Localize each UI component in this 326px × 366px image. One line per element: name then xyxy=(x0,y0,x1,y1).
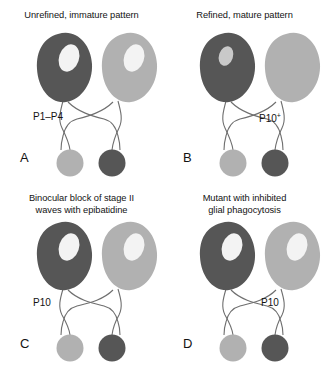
optic-fibers xyxy=(223,101,284,150)
panel-c-letter: C xyxy=(20,336,29,351)
right-target-nucleus xyxy=(99,335,126,362)
right-target-nucleus xyxy=(99,150,126,177)
panel-a-letter: A xyxy=(20,150,29,165)
panel-b-letter: B xyxy=(183,150,192,165)
left-eye xyxy=(200,33,255,102)
panel-d-age-label: P10 xyxy=(261,296,279,308)
panel-a: Unrefined, immature pattern P1–P4 A xyxy=(0,0,163,183)
optic-fibers xyxy=(60,289,121,335)
left-target-nucleus xyxy=(220,335,247,362)
right-eye xyxy=(102,222,157,290)
left-eye xyxy=(37,33,92,102)
left-target-nucleus xyxy=(220,150,247,177)
right-target-nucleus xyxy=(262,150,289,177)
left-target-nucleus xyxy=(57,335,84,362)
panel-b: Refined, mature pattern P10+ B xyxy=(163,0,326,183)
panel-d-letter: D xyxy=(183,336,192,351)
left-target-nucleus xyxy=(57,150,84,177)
panel-d: Mutant with inhibited glial phagocytosis… xyxy=(163,183,326,366)
panel-b-age-label: P10+ xyxy=(259,112,281,124)
right-target-nucleus xyxy=(262,335,289,362)
optic-fibers xyxy=(60,101,121,150)
left-eye xyxy=(37,222,92,290)
left-eye xyxy=(200,222,255,290)
right-eye xyxy=(102,33,157,102)
right-eye xyxy=(265,222,320,290)
panel-c: Binocular block of stage II waves with e… xyxy=(0,183,163,366)
panel-c-age-label: P10 xyxy=(33,296,51,308)
panel-a-age-label: P1–P4 xyxy=(33,110,63,122)
retinogeniculate-refinement-figure: Unrefined, immature pattern P1–P4 A Refi xyxy=(0,0,326,366)
right-eye xyxy=(265,33,320,102)
